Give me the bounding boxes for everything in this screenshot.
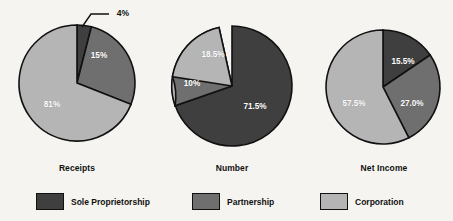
legend-item-sole-proprietorship: Sole Proprietorship: [36, 193, 150, 210]
pie-net-income-svg: [314, 23, 453, 151]
pie-chart-receipts: 4% 15% 81%: [7, 19, 147, 149]
legend-label-corporation: Corporation: [355, 197, 404, 207]
slice-label-partnership: 15%: [91, 51, 107, 60]
legend-item-corporation: Corporation: [320, 193, 404, 210]
slice-label-sole-proprietorship: 4%: [117, 8, 129, 18]
pie-caption-receipts: Receipts: [7, 163, 147, 173]
pie-chart-figure: 4% 15% 81% Receipts 71.5% 18.5% 10% Numb…: [0, 0, 453, 221]
legend-swatch-partnership-icon: [192, 193, 220, 210]
slice-label-corporation: 57.5%: [342, 99, 365, 108]
slice-label-sole-proprietorship: 15.5%: [391, 57, 414, 66]
slice-label-partnership: 10%: [184, 79, 200, 88]
pie-chart-net-income: 15.5% 27.0% 57.5%: [314, 23, 453, 151]
pie-caption-net-income: Net Income: [314, 163, 453, 173]
legend-swatch-corporation-icon: [320, 193, 348, 210]
slice-label-corporation: 81%: [44, 100, 60, 109]
pie-chart-number: 71.5% 18.5% 10%: [162, 21, 302, 153]
pie-chart-row: 4% 15% 81% Receipts 71.5% 18.5% 10% Numb…: [0, 0, 453, 182]
slice-label-partnership: 27.0%: [400, 99, 423, 108]
legend-label-sole-proprietorship: Sole Proprietorship: [71, 197, 150, 207]
legend-item-partnership: Partnership: [192, 193, 274, 210]
pie-caption-number: Number: [162, 163, 302, 173]
slice-label-sole-proprietorship: 71.5%: [243, 102, 266, 111]
legend-label-partnership: Partnership: [227, 197, 274, 207]
slice-label-corporation: 18.5%: [201, 50, 224, 59]
chart-legend: Sole Proprietorship Partnership Corporat…: [0, 185, 453, 221]
pie-receipts-svg: [7, 19, 147, 149]
legend-swatch-sole-proprietorship-icon: [36, 193, 64, 210]
